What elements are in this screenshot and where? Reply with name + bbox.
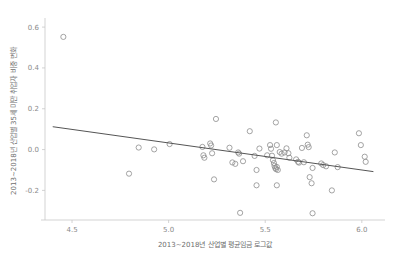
scatter-point (211, 177, 216, 182)
scatter-point (304, 133, 309, 138)
scatter-point (227, 145, 232, 150)
scatter-point (213, 116, 218, 121)
scatter-point (210, 151, 215, 156)
scatter-point (356, 131, 361, 136)
scatter-point (332, 150, 337, 155)
x-axis-ticks: 4.55.05.56.0 (66, 220, 367, 234)
x-tick-label: 4.5 (66, 226, 77, 234)
scatter-point (126, 171, 131, 176)
x-tick-label: 5.0 (163, 226, 174, 234)
scatter-point (237, 151, 242, 156)
scatter-point (254, 167, 259, 172)
y-axis-title: 2013~2018년 산업별 35세 미만 취업자 비중 변화 (9, 46, 18, 195)
scatter-point (61, 34, 66, 39)
scatter-point (310, 165, 315, 170)
scatter-point (329, 188, 334, 193)
chart-canvas: 0.60.40.20.0-0.2 4.55.05.56.0 2013~2018년… (0, 0, 398, 264)
scatter-points-group (61, 34, 369, 216)
y-tick-label: 0.4 (28, 64, 40, 72)
regression-trendline (53, 127, 374, 172)
y-tick-label: 0.2 (28, 105, 39, 113)
y-tick-label: -0.2 (25, 187, 39, 195)
scatter-point (247, 129, 252, 134)
scatter-point (254, 183, 259, 188)
x-tick-label: 6.0 (356, 226, 367, 234)
scatter-point (152, 147, 157, 152)
scatter-point (268, 146, 273, 151)
y-tick-label: 0.6 (28, 24, 40, 32)
scatter-point (309, 181, 314, 186)
x-tick-label: 5.5 (260, 226, 271, 234)
scatter-point (299, 145, 304, 150)
scatter-point (252, 153, 257, 158)
scatter-point (274, 183, 279, 188)
y-tick-label: 0.0 (28, 146, 39, 154)
scatter-point (310, 211, 315, 216)
scatter-point (238, 210, 243, 215)
y-axis-ticks: 0.60.40.20.0-0.2 (25, 24, 45, 195)
scatter-point (136, 145, 141, 150)
scatter-point (358, 142, 363, 147)
scatter-point (307, 175, 312, 180)
scatter-point (167, 141, 172, 146)
scatter-point (363, 159, 368, 164)
scatter-point (267, 142, 272, 147)
scatter-point (240, 159, 245, 164)
scatter-point (274, 142, 279, 147)
x-axis-title: 2013~2018년 산업별 평균임금 로그값 (158, 240, 273, 249)
scatter-point (257, 146, 262, 151)
scatter-point (362, 154, 367, 159)
scatter-chart-figure: 0.60.40.20.0-0.2 4.55.05.56.0 2013~2018년… (0, 0, 398, 264)
scatter-point (273, 120, 278, 125)
